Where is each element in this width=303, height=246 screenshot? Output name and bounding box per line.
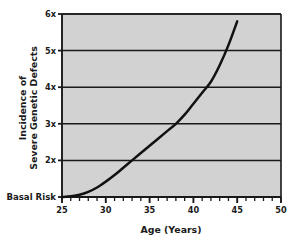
chart-svg: Basal Risk2x3x4x5x6x 253035404550 Incide… (0, 0, 303, 246)
y-tick-label-1: 2x (45, 155, 57, 165)
y-tick-label-5: 6x (45, 9, 57, 19)
x-tick-label-5: 50 (275, 205, 287, 215)
plot-area-background (62, 14, 281, 197)
y-tick-label-0: Basal Risk (6, 192, 56, 202)
x-tick-label-3: 40 (188, 205, 200, 215)
y-tick-label-3: 4x (45, 82, 57, 92)
y-tick-label-4: 5x (45, 46, 57, 56)
y-tick-label-2: 3x (45, 119, 57, 129)
x-tick-label-0: 25 (56, 205, 68, 215)
x-tick-label-4: 45 (231, 205, 243, 215)
x-axis-title: Age (Years) (141, 224, 202, 235)
x-tick-label-2: 35 (144, 205, 156, 215)
x-tick-label-1: 30 (100, 205, 112, 215)
y-axis-title-line1: Incidence of (17, 75, 28, 140)
y-axis-title-line2: Severe Genetic Defects (28, 46, 39, 170)
y-axis-title: Incidence of Severe Genetic Defects (17, 46, 39, 170)
x-axis-tick-labels: 253035404550 (56, 205, 287, 215)
genetic-defects-chart: Basal Risk2x3x4x5x6x 253035404550 Incide… (0, 0, 303, 246)
